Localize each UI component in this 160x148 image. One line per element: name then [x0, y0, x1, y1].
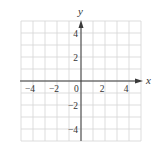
- y-tick-label: −4: [68, 125, 78, 135]
- x-tick-label: 2: [100, 84, 105, 94]
- x-tick-label: 4: [124, 84, 129, 94]
- axes: [20, 20, 143, 141]
- y-tick-label: 4: [73, 29, 78, 39]
- y-axis-label: y: [77, 5, 83, 17]
- x-tick-label: −4: [25, 84, 35, 94]
- coordinate-grid: −4−202442−2−4 x y: [0, 0, 160, 148]
- x-tick-label: −2: [49, 84, 59, 94]
- y-tick-label: 2: [73, 53, 78, 63]
- x-axis-label: x: [145, 74, 151, 86]
- x-axis-arrow-icon: [135, 79, 143, 84]
- y-tick-label: −2: [68, 101, 78, 111]
- x-tick-label: 0: [74, 84, 79, 94]
